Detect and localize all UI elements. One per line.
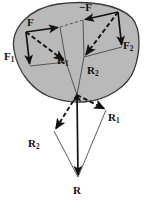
label-F2: F2 bbox=[123, 40, 133, 53]
lower-triangle-left bbox=[54, 131, 78, 177]
label-minus-F: −F bbox=[79, 2, 92, 13]
label-F1: F1 bbox=[4, 51, 14, 64]
figure-canvas: F −F F1 F2 R1 R2 R1 R2 R bbox=[0, 0, 144, 204]
label-R2-top: R2 bbox=[87, 65, 99, 78]
vector-R-resultant bbox=[77, 95, 78, 175]
lower-triangle-right bbox=[78, 110, 106, 177]
label-F: F bbox=[27, 17, 34, 28]
label-R-resultant: R bbox=[73, 185, 81, 196]
label-R1-bottom: R1 bbox=[108, 112, 120, 125]
label-R2-bottom: R2 bbox=[28, 138, 40, 151]
vector-diagram-svg bbox=[0, 0, 144, 204]
label-R1-top: R1 bbox=[57, 55, 69, 68]
